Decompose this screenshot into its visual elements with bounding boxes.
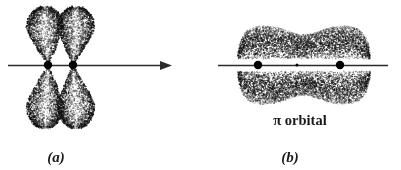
panel-a-label: (a) xyxy=(36,150,76,165)
orbital-figure: (a) π orbital (b) xyxy=(0,0,401,170)
pi-orbital-caption: π orbital xyxy=(237,113,363,128)
orbital-diagram-canvas xyxy=(0,0,401,170)
panel-b-label: (b) xyxy=(270,150,310,165)
